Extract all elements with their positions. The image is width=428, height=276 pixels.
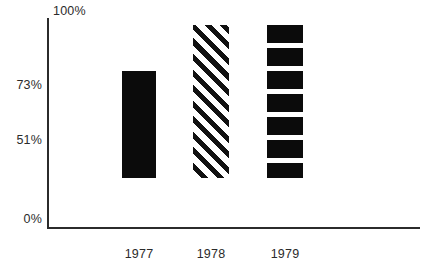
plot-area	[0, 0, 428, 227]
bar-chart: 100% 73% 51% 0% 1977 1978 1979	[0, 0, 428, 276]
bar-1979-top-cap	[267, 25, 303, 31]
x-tick-label-1979: 1979	[258, 247, 312, 261]
bar-1977	[122, 71, 156, 178]
bar-1979	[267, 25, 303, 178]
x-tick-label-1977: 1977	[112, 247, 166, 261]
bar-1978	[193, 25, 229, 178]
x-tick-label-1978: 1978	[184, 247, 238, 261]
x-axis-line	[47, 227, 420, 229]
